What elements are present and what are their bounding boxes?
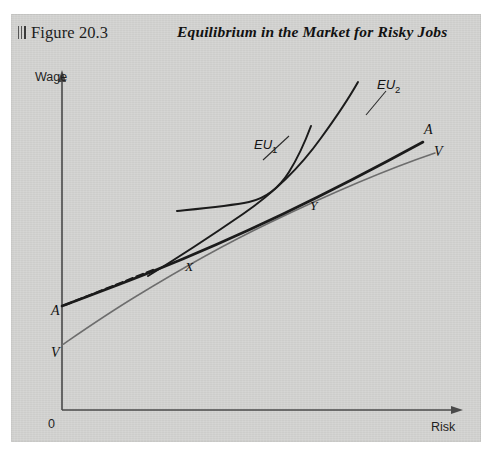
x-axis-label: Risk: [431, 420, 455, 434]
curve-label-v-left: V: [51, 345, 60, 361]
x-axis: [62, 406, 463, 414]
curve-label-eu1-subscript: 1: [272, 144, 277, 155]
curve-label-eu2: EU2: [377, 77, 400, 95]
point-label-y: Y: [310, 198, 318, 214]
y-axis-label: Wage: [35, 70, 67, 84]
curve-label-v-right: V: [434, 144, 443, 160]
figure-root: Figure 20.3 Equilibrium in the Market fo…: [0, 0, 494, 461]
curve-label-eu1-text: EU: [254, 137, 272, 152]
curve-label-a-left: A: [51, 303, 60, 319]
leader-line-eu2: [366, 91, 386, 115]
curve-wage-offer-a: [62, 142, 423, 306]
curve-indifference-eu2: [148, 82, 358, 276]
figure-panel: Figure 20.3 Equilibrium in the Market fo…: [11, 14, 481, 442]
curve-label-eu1: EU1: [254, 137, 277, 155]
curve-wage-offer-v: [62, 153, 435, 345]
curve-label-eu2-text: EU: [377, 77, 395, 92]
curve-label-a-right: A: [424, 122, 433, 138]
plot-canvas: [11, 14, 481, 442]
curve-label-eu2-subscript: 2: [395, 84, 400, 95]
curve-a-dashed-segment: [65, 270, 153, 305]
point-label-x: X: [185, 259, 193, 275]
origin-label: 0: [48, 417, 55, 431]
curve-indifference-eu1: [177, 126, 311, 211]
